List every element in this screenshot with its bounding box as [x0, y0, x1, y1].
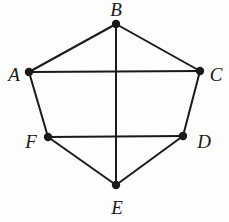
graph-edge-cd — [183, 71, 200, 136]
vertex-layer — [25, 20, 204, 189]
graph-vertex-e — [112, 181, 120, 189]
vertex-label-c: C — [210, 65, 223, 84]
vertex-label-d: D — [197, 132, 211, 151]
vertex-label-e: E — [111, 198, 123, 217]
graph-edge-ac — [29, 71, 200, 72]
vertex-label-b: B — [110, 0, 122, 19]
graph-vertex-b — [112, 20, 120, 28]
graph-vertex-d — [179, 132, 187, 140]
vertex-label-f: F — [25, 132, 37, 151]
graph-canvas — [0, 0, 229, 222]
graph-figure: ABCDEF — [0, 0, 229, 222]
graph-edge-ef — [48, 137, 116, 185]
graph-vertex-a — [25, 68, 33, 76]
graph-edge-bc — [116, 24, 200, 71]
graph-edge-ab — [29, 24, 116, 72]
graph-vertex-f — [44, 133, 52, 141]
graph-edge-de — [116, 136, 183, 185]
graph-vertex-c — [196, 67, 204, 75]
vertex-label-a: A — [8, 65, 20, 84]
graph-edge-fa — [29, 72, 48, 137]
edge-layer — [29, 24, 200, 185]
